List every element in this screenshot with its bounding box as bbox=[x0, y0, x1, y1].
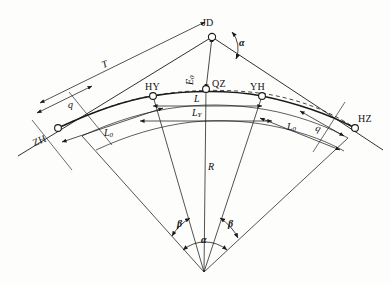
label-spiral-L0-right: L0 bbox=[287, 122, 296, 133]
label-external-E0: E0 bbox=[185, 75, 196, 85]
label-beta-right: β bbox=[228, 219, 233, 229]
point-marker-YH bbox=[259, 93, 266, 100]
label-QZ: QZ bbox=[212, 79, 226, 89]
radius-to-YH bbox=[204, 96, 262, 272]
inner-offset-curve-2 bbox=[96, 121, 344, 151]
point-marker-HZ bbox=[352, 125, 359, 132]
label-alpha-center: α bbox=[201, 235, 207, 245]
label-curve-LY: LY bbox=[192, 108, 201, 119]
tangent-T-dim-line bbox=[40, 22, 205, 103]
point-marker-HY bbox=[150, 93, 157, 100]
radius-to-HY bbox=[153, 96, 204, 272]
point-marker-QZ bbox=[203, 86, 210, 93]
q-left-dim-line bbox=[37, 86, 92, 113]
label-radius-R: R bbox=[208, 162, 214, 172]
label-spiral-L0-left: L0 bbox=[104, 128, 113, 139]
diagram-canvas bbox=[0, 0, 391, 283]
radii-lines bbox=[82, 89, 348, 272]
point-marker-JD bbox=[208, 33, 215, 40]
radius-to-HZ-side bbox=[204, 138, 348, 272]
transition-curve-diagram: JD ZH HY QZ YH HZ T q q E0 L LY L0 L0 R … bbox=[0, 0, 391, 283]
label-beta-left: β bbox=[177, 219, 182, 229]
label-curve-L: L bbox=[194, 94, 200, 104]
dimension-lines bbox=[37, 22, 344, 150]
point-marker-ZH bbox=[55, 125, 62, 132]
label-YH: YH bbox=[250, 82, 265, 92]
main-alignment-curve bbox=[58, 92, 355, 129]
radius-to-ZH-side bbox=[82, 136, 204, 272]
label-HY: HY bbox=[145, 82, 160, 92]
alpha-top-arc bbox=[232, 32, 238, 59]
back-tangent-line bbox=[18, 37, 212, 156]
label-alpha-top: α bbox=[239, 38, 245, 48]
label-q-left: q bbox=[68, 100, 73, 110]
label-HZ: HZ bbox=[358, 114, 372, 124]
L0-right-dim-line bbox=[260, 118, 340, 150]
offset-tangent-construction bbox=[32, 92, 345, 170]
label-JD: JD bbox=[202, 18, 214, 28]
